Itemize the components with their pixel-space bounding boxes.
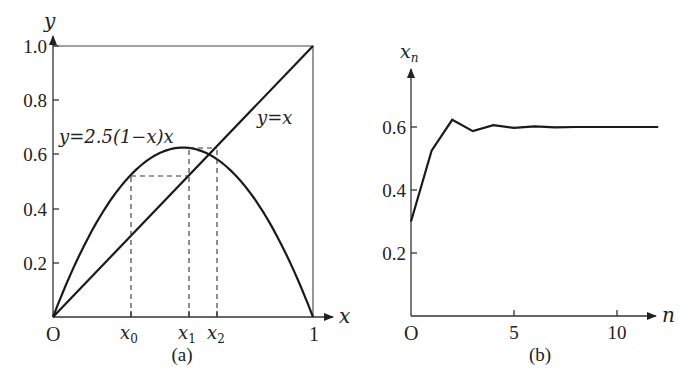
cobweb-dashes xyxy=(131,148,217,317)
x-axis-label: x xyxy=(339,304,350,328)
x-tick-label: 5 xyxy=(509,322,519,343)
y-tick-label: 0.4 xyxy=(382,180,406,201)
b-x-tick-labels: 5 10 xyxy=(509,322,626,343)
y-tick-label: 0.4 xyxy=(23,199,47,220)
y-axis-label: y xyxy=(43,9,56,33)
figure-a: 0.2 0.4 0.6 0.8 1.0 y x O 1 xyxy=(23,9,350,366)
figure-canvas: 0.2 0.4 0.6 0.8 1.0 y x O 1 xyxy=(0,0,691,385)
y-tick-label: 0.6 xyxy=(382,117,406,138)
n-axis-label: n xyxy=(662,303,675,327)
y-tick-label: 0.2 xyxy=(23,253,47,274)
x1-label: x1 xyxy=(178,322,196,346)
origin-label: O xyxy=(404,322,418,344)
caption-a: (a) xyxy=(171,344,192,366)
identity-line xyxy=(53,46,313,317)
b-y-tick-labels: 0.2 0.4 0.6 xyxy=(382,117,406,264)
curve-label: y=2.5(1−x)x xyxy=(58,126,174,147)
caption-b: (b) xyxy=(529,344,551,366)
b-x-ticks xyxy=(514,310,617,316)
y-ticks xyxy=(53,46,59,263)
b-y-ticks xyxy=(411,127,417,253)
x2-label: x2 xyxy=(207,322,225,346)
y-tick-label: 0.2 xyxy=(382,243,406,264)
iterates-line xyxy=(411,120,658,222)
line-label: y=x xyxy=(256,107,292,128)
origin-label: O xyxy=(46,323,60,345)
y-tick-labels: 0.2 0.4 0.6 0.8 1.0 xyxy=(23,36,47,274)
figure-b: 0.2 0.4 0.6 5 10 O n xn (b) xyxy=(382,40,675,366)
x-mark-labels: x0 x1 x2 xyxy=(120,322,225,346)
x-ticks xyxy=(131,311,217,317)
y-tick-label: 1.0 xyxy=(23,36,47,57)
x-tick-label: 10 xyxy=(608,322,627,343)
y-tick-label: 0.8 xyxy=(23,90,47,111)
x0-label: x0 xyxy=(120,322,138,346)
y-tick-label: 0.6 xyxy=(23,144,47,165)
x-end-label: 1 xyxy=(309,323,319,345)
logistic-curve xyxy=(53,148,313,317)
xn-axis-label: xn xyxy=(400,40,418,65)
